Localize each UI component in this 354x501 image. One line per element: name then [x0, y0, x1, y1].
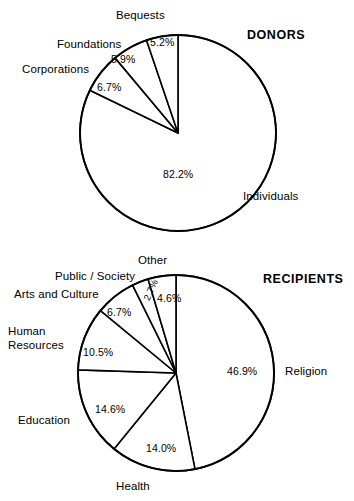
slice-percent-label: 4.6% [157, 293, 181, 305]
slice-percent-label: 14.0% [146, 443, 176, 455]
slice-percent-label: 10.5% [83, 347, 113, 359]
slice-category-label: Education [18, 414, 70, 427]
slice-category-label: Health [116, 480, 150, 493]
slice-category-label: Bequests [116, 9, 165, 22]
slice-category-label: Other [138, 254, 167, 267]
slice-category-label: HumanResources [8, 325, 64, 352]
slice-percent-label: 82.2% [163, 169, 193, 181]
slice-category-label: Corporations [22, 63, 89, 76]
slice-percent-label: 6.7% [97, 82, 121, 94]
chart-title-recipients: RECIPIENTS [263, 272, 344, 286]
pie-chart-figure: DONORS82.2%Individuals6.7%Corporations5.… [0, 0, 354, 501]
slice-percent-label: 5.2% [150, 37, 174, 49]
slice-percent-label: 46.9% [227, 366, 257, 378]
slice-percent-label: 14.6% [95, 404, 125, 416]
slice-percent-label: 5.9% [111, 54, 135, 66]
slice-category-label: Arts and Culture [14, 288, 99, 301]
slice-category-label: Individuals [243, 190, 298, 203]
chart-title-donors: DONORS [247, 28, 305, 42]
pie-slice[interactable] [176, 275, 274, 469]
slice-category-label: Foundations [57, 38, 121, 51]
slice-category-label: Public / Society [55, 270, 135, 283]
slice-category-label: Religion [285, 365, 327, 378]
slice-percent-label: 6.7% [107, 307, 131, 319]
